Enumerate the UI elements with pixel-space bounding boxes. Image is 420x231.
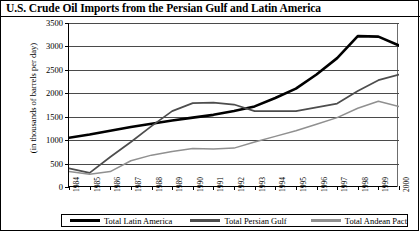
legend-item[interactable]: Total Latin America (62, 215, 182, 226)
y-axis-title: (in thousands of barrels per day) (28, 28, 38, 168)
y-axis-tick-label: 2500 (46, 65, 63, 75)
legend-item[interactable]: Total Persian Gulf (182, 215, 302, 226)
legend-label: Total Persian Gulf (224, 216, 286, 226)
y-axis-tick-label: 2000 (46, 88, 63, 98)
legend-color-swatch (70, 219, 100, 222)
plot-area: 0500100015002000250030003500 19841985198… (68, 23, 398, 187)
y-axis-tick-label: 3000 (46, 41, 63, 51)
chart-title: U.S. Crude Oil Imports from the Persian … (1, 1, 420, 17)
x-axis-tick (399, 186, 400, 190)
legend-label: Total Andean Pact (345, 216, 407, 226)
y-axis-tick-label: 500 (50, 159, 63, 169)
y-axis-tick-label: 3500 (46, 18, 63, 28)
chart-legend: Total Latin AmericaTotal Persian GulfTot… (61, 214, 408, 227)
legend-label: Total Latin America (104, 216, 172, 226)
legend-item[interactable]: Total Andean Pact (303, 215, 407, 226)
y-axis-tick-label: 1000 (46, 135, 63, 145)
y-axis-tick-label: 1500 (46, 112, 63, 122)
series-lines (69, 23, 399, 187)
x-axis-tick-label: 2000 (402, 177, 411, 192)
series-line (69, 36, 399, 138)
legend-color-swatch (190, 219, 220, 222)
legend-color-swatch (311, 219, 341, 222)
series-line (69, 75, 399, 173)
y-axis-tick-label: 0 (59, 182, 63, 192)
